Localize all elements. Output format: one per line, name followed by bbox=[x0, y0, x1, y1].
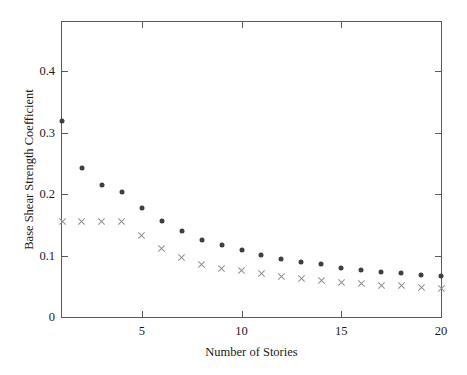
data-point-cross bbox=[297, 274, 306, 283]
y-tick-mark bbox=[62, 71, 68, 72]
data-point-cross bbox=[157, 244, 166, 253]
data-point-cross bbox=[237, 266, 246, 275]
data-point-circle bbox=[179, 228, 184, 233]
x-tick-mark-top bbox=[242, 22, 243, 28]
data-point-cross bbox=[137, 231, 146, 240]
x-tick-mark bbox=[341, 311, 342, 317]
data-point-circle bbox=[199, 238, 204, 243]
data-point-cross bbox=[317, 276, 326, 285]
y-axis-title: Base Shear Strength Coefficient bbox=[22, 21, 38, 318]
plot-frame: 00.10.20.30.45101520 bbox=[61, 21, 442, 318]
y-tick-mark bbox=[62, 133, 68, 134]
data-point-cross bbox=[437, 284, 446, 293]
data-point-cross bbox=[417, 283, 426, 292]
y-tick-label: 0.4 bbox=[39, 65, 55, 78]
x-tick-mark bbox=[441, 311, 442, 317]
data-point-circle bbox=[239, 248, 244, 253]
data-point-circle bbox=[399, 271, 404, 276]
data-point-circle bbox=[299, 260, 304, 265]
chart-figure: 00.10.20.30.45101520 Number of Stories B… bbox=[0, 0, 467, 375]
data-point-circle bbox=[119, 190, 124, 195]
data-point-circle bbox=[319, 262, 324, 267]
y-tick-mark-right bbox=[435, 194, 441, 195]
y-tick-mark-right bbox=[435, 317, 441, 318]
x-tick-mark-top bbox=[142, 22, 143, 28]
data-point-cross bbox=[97, 217, 106, 226]
data-point-cross bbox=[197, 260, 206, 269]
y-tick-label: 0.1 bbox=[39, 249, 55, 262]
y-tick-mark-right bbox=[435, 71, 441, 72]
data-point-circle bbox=[60, 118, 65, 123]
data-point-circle bbox=[219, 243, 224, 248]
data-point-cross bbox=[177, 253, 186, 262]
data-point-cross bbox=[117, 217, 126, 226]
plot-area: 00.10.20.30.45101520 bbox=[62, 22, 441, 317]
data-point-circle bbox=[79, 165, 84, 170]
x-tick-label: 20 bbox=[435, 325, 448, 338]
x-tick-label: 5 bbox=[139, 325, 145, 338]
x-tick-mark-top bbox=[341, 22, 342, 28]
data-point-cross bbox=[277, 272, 286, 281]
y-tick-mark bbox=[62, 256, 68, 257]
y-tick-mark-right bbox=[435, 256, 441, 257]
x-tick-mark bbox=[242, 311, 243, 317]
data-point-circle bbox=[419, 272, 424, 277]
x-tick-mark bbox=[142, 311, 143, 317]
y-tick-label: 0 bbox=[49, 311, 55, 324]
data-point-circle bbox=[279, 256, 284, 261]
y-tick-mark bbox=[62, 194, 68, 195]
x-tick-mark-top bbox=[441, 22, 442, 28]
data-point-cross bbox=[397, 281, 406, 290]
data-point-cross bbox=[217, 264, 226, 273]
data-point-circle bbox=[439, 274, 444, 279]
data-point-cross bbox=[257, 269, 266, 278]
y-tick-label: 0.3 bbox=[39, 126, 55, 139]
data-point-cross bbox=[357, 279, 366, 288]
y-tick-mark bbox=[62, 317, 68, 318]
data-point-cross bbox=[77, 217, 86, 226]
data-point-circle bbox=[259, 252, 264, 257]
x-tick-label: 10 bbox=[235, 325, 248, 338]
data-point-circle bbox=[159, 218, 164, 223]
data-point-cross bbox=[58, 217, 67, 226]
x-tick-label: 15 bbox=[335, 325, 348, 338]
data-point-circle bbox=[359, 268, 364, 273]
data-point-cross bbox=[337, 278, 346, 287]
y-tick-mark-right bbox=[435, 133, 441, 134]
y-tick-label: 0.2 bbox=[39, 188, 55, 201]
data-point-circle bbox=[379, 270, 384, 275]
x-axis-title: Number of Stories bbox=[61, 345, 442, 360]
data-point-circle bbox=[339, 265, 344, 270]
data-point-circle bbox=[99, 182, 104, 187]
data-point-circle bbox=[139, 205, 144, 210]
data-point-cross bbox=[377, 281, 386, 290]
